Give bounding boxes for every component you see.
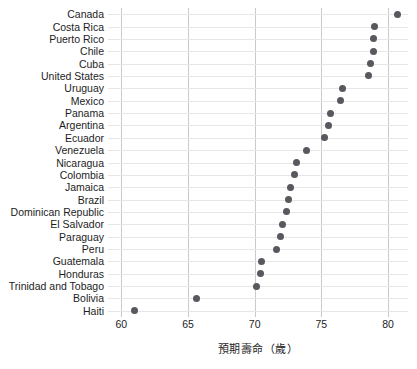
row-gridline xyxy=(108,138,408,139)
row-gridline xyxy=(108,224,408,225)
x-tick-label: 80 xyxy=(382,319,394,330)
category-label: Brazil xyxy=(78,194,104,205)
category-label: El Salvador xyxy=(50,219,104,230)
data-point xyxy=(131,307,138,314)
data-point xyxy=(193,295,200,302)
data-point xyxy=(273,246,280,253)
category-label: Dominican Republic xyxy=(11,207,104,218)
dot-plot-chart: CanadaCosta RicaPuerto RicoChileCubaUnit… xyxy=(0,0,417,369)
row-gridline xyxy=(108,150,408,151)
x-axis-title: 預期壽命（歲） xyxy=(108,340,408,356)
data-point xyxy=(285,196,292,203)
data-point xyxy=(283,208,290,215)
category-label: Peru xyxy=(82,244,104,255)
category-label: Venezuela xyxy=(55,145,104,156)
x-tick-label: 70 xyxy=(249,319,261,330)
row-gridline xyxy=(108,298,408,299)
category-label: Trinidad and Tobago xyxy=(9,281,104,292)
category-label: Mexico xyxy=(71,95,104,106)
data-point xyxy=(325,122,332,129)
category-label: Ecuador xyxy=(65,133,104,144)
row-gridline xyxy=(108,39,408,40)
data-point xyxy=(257,270,264,277)
category-label: Nicaragua xyxy=(56,157,104,168)
category-label: Argentina xyxy=(59,120,104,131)
data-point xyxy=(370,35,377,42)
data-point xyxy=(339,85,346,92)
row-gridline xyxy=(108,200,408,201)
data-point xyxy=(321,134,328,141)
row-gridline xyxy=(108,64,408,65)
x-axis-tick-labels: 6065707580 xyxy=(108,317,408,337)
row-gridline xyxy=(108,212,408,213)
row-gridline xyxy=(108,76,408,77)
row-gridline xyxy=(108,101,408,102)
data-point xyxy=(303,147,310,154)
category-label: Honduras xyxy=(58,268,104,279)
data-point xyxy=(367,60,374,67)
data-point xyxy=(327,110,334,117)
category-label: Jamaica xyxy=(65,182,104,193)
row-gridline xyxy=(108,175,408,176)
category-label: Guatemala xyxy=(53,256,104,267)
row-gridline xyxy=(108,88,408,89)
x-tick-label: 75 xyxy=(315,319,327,330)
x-tick-label: 60 xyxy=(115,319,127,330)
data-point xyxy=(371,23,378,30)
data-point xyxy=(337,97,344,104)
row-gridline xyxy=(108,237,408,238)
data-point xyxy=(291,171,298,178)
category-label: Colombia xyxy=(60,170,104,181)
data-point xyxy=(394,11,401,18)
category-label: Paraguay xyxy=(59,231,104,242)
data-point xyxy=(370,48,377,55)
row-gridline xyxy=(108,249,408,250)
category-label: Chile xyxy=(80,46,104,57)
row-gridline xyxy=(108,163,408,164)
plot-area xyxy=(108,8,408,317)
category-label: Costa Rica xyxy=(53,21,104,32)
data-point xyxy=(293,159,300,166)
row-gridline xyxy=(108,27,408,28)
data-point xyxy=(365,72,372,79)
data-point xyxy=(277,233,284,240)
category-label: Canada xyxy=(67,9,104,20)
row-gridline xyxy=(108,187,408,188)
category-label: Puerto Rico xyxy=(49,34,104,45)
x-tick-label: 65 xyxy=(182,319,194,330)
y-axis-category-labels: CanadaCosta RicaPuerto RicoChileCubaUnit… xyxy=(0,8,104,317)
category-label: Bolivia xyxy=(73,293,104,304)
row-gridline xyxy=(108,125,408,126)
category-label: United States xyxy=(41,71,104,82)
category-label: Panama xyxy=(65,108,104,119)
data-point xyxy=(253,283,260,290)
data-point xyxy=(279,221,286,228)
category-label: Haiti xyxy=(83,306,104,317)
row-gridline xyxy=(108,311,408,312)
row-gridline xyxy=(108,14,408,15)
data-point xyxy=(287,184,294,191)
category-label: Cuba xyxy=(79,58,104,69)
data-point xyxy=(258,258,265,265)
category-label: Uruguay xyxy=(64,83,104,94)
row-gridline xyxy=(108,113,408,114)
row-gridline xyxy=(108,51,408,52)
